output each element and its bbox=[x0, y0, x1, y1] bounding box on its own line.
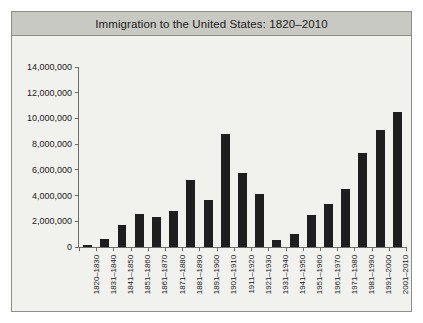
bar bbox=[100, 239, 109, 247]
bar bbox=[118, 225, 127, 247]
x-axis-tick-label: 1881–1890 bbox=[195, 255, 204, 294]
x-axis-tick-label: 1901–1910 bbox=[229, 255, 238, 294]
y-axis-tick-label: 2,000,000 bbox=[32, 216, 75, 226]
x-axis-tick-label: 1861–1870 bbox=[160, 255, 169, 294]
bar bbox=[290, 234, 299, 247]
plot-area: 02,000,0004,000,0006,000,0008,000,00010,… bbox=[79, 67, 406, 247]
x-axis-tick-mark bbox=[234, 247, 235, 251]
bar bbox=[272, 240, 281, 247]
x-axis-tick-mark bbox=[199, 247, 200, 251]
bar bbox=[341, 189, 350, 247]
bar bbox=[169, 211, 178, 247]
bar bbox=[221, 134, 230, 247]
bar bbox=[152, 217, 161, 247]
y-axis-tick-label: 12,000,000 bbox=[27, 88, 75, 98]
y-axis-tick: 2,000,000 bbox=[32, 216, 79, 226]
bar bbox=[358, 153, 367, 247]
x-axis-tick-label: 1971–1980 bbox=[350, 255, 359, 294]
bar bbox=[255, 194, 264, 247]
x-axis-tick-label: 1891–1900 bbox=[212, 255, 221, 294]
bar bbox=[376, 130, 385, 247]
y-axis-tick-label: 6,000,000 bbox=[32, 165, 75, 175]
x-axis-tick-mark bbox=[389, 247, 390, 251]
y-axis-tick-mark bbox=[75, 169, 79, 170]
bar bbox=[393, 112, 402, 247]
y-axis-tick-mark bbox=[75, 195, 79, 196]
chart-title-band: Immigration to the United States: 1820–2… bbox=[12, 12, 411, 36]
page-title: Immigration to the United States: 1820–2… bbox=[95, 18, 328, 30]
x-axis-tick-label: 1991–2000 bbox=[384, 255, 393, 294]
x-axis-tick-mark bbox=[251, 247, 252, 251]
x-axis-tick-mark bbox=[406, 247, 407, 251]
y-axis-tick: 8,000,000 bbox=[32, 139, 79, 149]
x-axis-tick-mark bbox=[182, 247, 183, 251]
bar bbox=[324, 204, 333, 247]
x-axis-tick-mark bbox=[286, 247, 287, 251]
y-axis-tick-label: 10,000,000 bbox=[27, 113, 75, 123]
bar bbox=[307, 215, 316, 247]
x-axis-line bbox=[78, 247, 406, 248]
x-axis-tick-label: 1941–1950 bbox=[298, 255, 307, 294]
x-axis-tick-label: 1911–1920 bbox=[247, 255, 256, 294]
x-axis-tick-label: 1871–1880 bbox=[178, 255, 187, 294]
x-axis-tick-label: 1841–1850 bbox=[126, 255, 135, 294]
y-axis-tick-mark bbox=[75, 67, 79, 68]
y-axis-tick-mark bbox=[75, 221, 79, 222]
x-axis-tick-mark bbox=[268, 247, 269, 251]
x-axis-tick-mark bbox=[96, 247, 97, 251]
x-axis-tick-mark bbox=[372, 247, 373, 251]
y-axis-tick-label: 8,000,000 bbox=[32, 139, 75, 149]
y-axis-tick-label: 0 bbox=[67, 242, 75, 252]
bar bbox=[186, 180, 195, 247]
y-axis-tick-label: 4,000,000 bbox=[32, 191, 75, 201]
x-axis-tick-mark bbox=[354, 247, 355, 251]
x-axis-tick-label: 1981–1990 bbox=[367, 255, 376, 294]
y-axis-tick: 0 bbox=[67, 242, 79, 252]
bar bbox=[204, 200, 213, 247]
y-axis-tick-mark bbox=[75, 144, 79, 145]
y-axis-tick-mark bbox=[75, 92, 79, 93]
x-axis-tick-mark bbox=[131, 247, 132, 251]
x-axis-tick-label: 2001–2010 bbox=[401, 255, 410, 294]
x-axis-tick-label: 1931–1940 bbox=[281, 255, 290, 294]
y-axis-tick-mark bbox=[75, 118, 79, 119]
x-axis-tick-label: 1831–1840 bbox=[109, 255, 118, 294]
bar bbox=[238, 173, 247, 247]
bar bbox=[135, 214, 144, 247]
y-axis-tick: 14,000,000 bbox=[27, 62, 79, 72]
bar bbox=[83, 245, 92, 247]
chart-figure: Immigration to the United States: 1820–2… bbox=[11, 11, 412, 312]
y-axis-tick-label: 14,000,000 bbox=[27, 62, 75, 72]
y-axis-tick: 12,000,000 bbox=[27, 88, 79, 98]
y-axis-tick: 10,000,000 bbox=[27, 113, 79, 123]
x-axis-tick-mark bbox=[217, 247, 218, 251]
x-axis-tick-mark bbox=[148, 247, 149, 251]
x-axis-tick-mark bbox=[337, 247, 338, 251]
x-axis-tick-mark bbox=[79, 247, 80, 251]
x-axis-tick-mark bbox=[320, 247, 321, 251]
y-axis-tick: 4,000,000 bbox=[32, 191, 79, 201]
x-axis-tick-label: 1820–1830 bbox=[92, 255, 101, 294]
x-axis-tick-mark bbox=[165, 247, 166, 251]
y-axis-tick: 6,000,000 bbox=[32, 165, 79, 175]
x-axis-tick-mark bbox=[303, 247, 304, 251]
x-axis-tick-label: 1951–1960 bbox=[315, 255, 324, 294]
x-axis-tick-label: 1961–1970 bbox=[333, 255, 342, 294]
x-axis-tick-label: 1921–1930 bbox=[264, 255, 273, 294]
x-axis-tick-mark bbox=[113, 247, 114, 251]
x-axis-tick-label: 1851–1860 bbox=[143, 255, 152, 294]
